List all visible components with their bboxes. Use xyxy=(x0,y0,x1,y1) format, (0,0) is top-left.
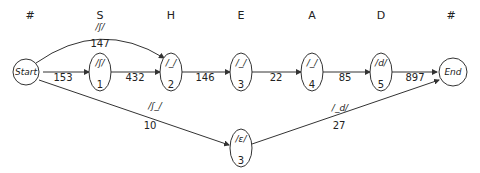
state-node-lower-3: /ε/ 3 xyxy=(230,129,252,167)
edge-weight-1-2: 432 xyxy=(125,72,144,83)
state-node-4-index: 4 xyxy=(309,79,315,90)
state-node-3-index: 3 xyxy=(238,79,244,90)
state-node-lower-3-index: 3 xyxy=(238,155,244,166)
column-header-hash-right: # xyxy=(446,9,455,22)
edge-arc-weight: 147 xyxy=(90,38,109,49)
state-node-lower-3-symbol: /ε/ xyxy=(235,134,248,144)
word-lattice-diagram: # S H E A D # /ʃ/ 147 153 432 146 22 85 … xyxy=(0,0,480,173)
state-node-1: /ʃ/ 1 xyxy=(89,53,111,91)
column-header-a: A xyxy=(308,9,316,22)
state-node-3-symbol: /_/ xyxy=(235,58,248,68)
state-node-2-index: 2 xyxy=(168,79,174,90)
edge-start-to-lower-3 xyxy=(39,80,229,145)
state-node-2: /_/ 2 xyxy=(160,53,182,91)
state-node-4-symbol: /_/ xyxy=(306,58,319,68)
state-node-2-symbol: /_/ xyxy=(165,58,178,68)
end-node-label: End xyxy=(444,67,461,77)
state-node-5: /d/ 5 xyxy=(370,53,392,91)
start-node-label: Start xyxy=(15,67,37,77)
state-node-5-symbol: /d/ xyxy=(374,58,388,68)
column-header-hash-left: # xyxy=(25,9,34,22)
edge-weight-3-4: 22 xyxy=(270,72,283,83)
edge-lower-left-symbol: /ʃ_/ xyxy=(147,101,163,111)
state-node-1-symbol: /ʃ/ xyxy=(94,58,105,68)
edge-arc-symbol: /ʃ/ xyxy=(94,22,105,32)
edge-weight-4-5: 85 xyxy=(339,72,352,83)
edge-lower-right-symbol: /_d/ xyxy=(331,103,349,113)
edge-lower-left-weight: 10 xyxy=(144,120,157,131)
state-node-1-index: 1 xyxy=(97,79,103,90)
edge-weight-5-end: 897 xyxy=(405,72,424,83)
edge-lower-right-weight: 27 xyxy=(333,120,346,131)
edge-weight-start-1: 153 xyxy=(53,72,72,83)
column-header-h: H xyxy=(167,9,175,22)
state-node-5-index: 5 xyxy=(378,79,384,90)
edge-weight-2-3: 146 xyxy=(195,72,214,83)
column-header-e: E xyxy=(238,9,245,22)
column-header-s: S xyxy=(97,9,104,22)
state-node-4: /_/ 4 xyxy=(301,53,323,91)
state-node-3: /_/ 3 xyxy=(230,53,252,91)
column-header-d: D xyxy=(377,9,385,22)
